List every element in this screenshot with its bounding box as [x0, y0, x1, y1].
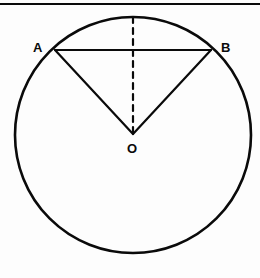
point-label-b: B: [221, 40, 230, 55]
circle-geometry-diagram: A B O: [0, 0, 260, 278]
point-label-o: O: [127, 141, 137, 156]
geometry-figure-container: A B O: [0, 0, 260, 278]
point-label-a: A: [33, 40, 43, 55]
